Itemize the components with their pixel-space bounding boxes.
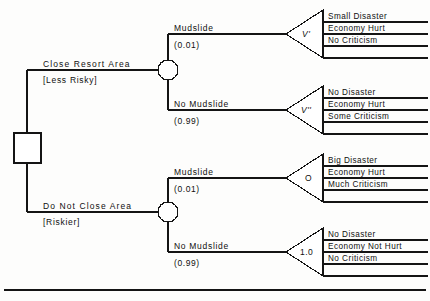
payoff-label-1: V' — [302, 29, 310, 39]
payoff-label-4: 1.0 — [300, 247, 313, 257]
consequence-1-2: Economy Hurt — [328, 24, 385, 33]
consequence-4-2: Economy Not Hurt — [328, 242, 402, 251]
branch-label-open-no-mudslide: No Mudslide — [174, 241, 229, 251]
consequence-1-3: No Criticism — [328, 36, 378, 45]
consequence-1-1: Small Disaster — [328, 12, 387, 21]
decision-label-close: Close Resort Area — [43, 59, 131, 69]
branch-probability-close-mudslide: (0.01) — [174, 40, 200, 50]
consequence-3-1: Big Disaster — [328, 156, 378, 165]
consequence-2-1: No Disaster — [328, 88, 376, 97]
decision-square — [14, 133, 41, 163]
payoff-label-2: V'' — [301, 105, 311, 115]
chance-node-notclose — [158, 202, 178, 222]
decision-tree-diagram: Close Resort Area [Less Risky] Do Not Cl… — [0, 0, 430, 301]
branch-probability-close-no-mudslide: (0.99) — [174, 116, 200, 126]
branch-probability-open-no-mudslide: (0.99) — [174, 258, 200, 268]
chance-node-close — [158, 60, 178, 80]
consequence-2-3: Some Criticism — [328, 112, 389, 121]
branch-label-close-no-mudslide: No Mudslide — [174, 99, 229, 109]
decision-note-not-close: [Riskier] — [43, 217, 80, 227]
branch-label-open-mudslide: Mudslide — [174, 167, 214, 177]
consequence-3-2: Economy Hurt — [328, 168, 385, 177]
decision-label-not-close: Do Not Close Area — [43, 201, 132, 211]
branch-probability-open-mudslide: (0.01) — [174, 184, 200, 194]
branch-label-close-mudslide: Mudslide — [174, 23, 214, 33]
payoff-label-3: O — [305, 173, 312, 183]
consequence-4-3: No Criticism — [328, 254, 378, 263]
consequence-2-2: Economy Hurt — [328, 100, 385, 109]
consequence-3-3: Much Criticism — [328, 180, 388, 189]
decision-note-close: [Less Risky] — [43, 75, 97, 85]
consequence-4-1: No Disaster — [328, 230, 376, 239]
